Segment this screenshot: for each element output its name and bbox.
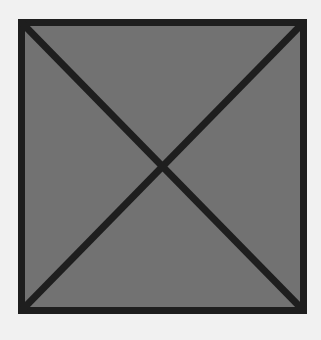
crossed-box-icon [18,19,307,314]
image-placeholder [18,19,307,314]
